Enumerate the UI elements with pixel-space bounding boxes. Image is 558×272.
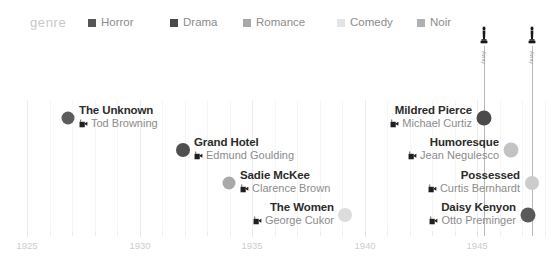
movie-camera-icon [428, 183, 437, 192]
axis-tick-label: 1945 [466, 240, 487, 251]
award-caption: Away [481, 51, 487, 64]
movie-camera-icon [429, 215, 438, 224]
axis-tick-minor [500, 231, 501, 236]
film-director-line: Jean Negulesco [408, 149, 499, 162]
axis-tick-minor [410, 231, 411, 236]
legend: genre HorrorDramaRomanceComedyNoir [0, 14, 558, 32]
axis-tick-major [477, 231, 478, 237]
film-label-block: Mildred PierceMichael Curtiz [390, 104, 472, 130]
axis-tick-label: 1935 [241, 240, 262, 251]
legend-swatch-icon [337, 19, 345, 27]
legend-swatch-icon [417, 19, 425, 27]
film-title: Possessed [428, 169, 520, 182]
axis-tick-minor [522, 231, 523, 236]
film-label-block: PossessedCurtis Bernhardt [428, 169, 520, 195]
axis-tick-label: 1940 [354, 240, 375, 251]
legend-title: genre [30, 15, 66, 30]
legend-item-noir[interactable]: Noir [417, 16, 451, 30]
legend-item-romance[interactable]: Romance [243, 16, 305, 30]
film-genre-dot[interactable] [525, 176, 539, 190]
legend-item-drama[interactable]: Drama [170, 16, 218, 30]
legend-item-label: Drama [183, 16, 218, 28]
film-entry[interactable]: HumoresqueJean Negulesco [0, 137, 558, 163]
axis-tick-minor [117, 231, 118, 236]
film-genre-dot[interactable] [477, 111, 492, 126]
axis-tick-major [252, 231, 253, 237]
axis-tick-minor [50, 231, 51, 236]
film-entry[interactable]: Daisy KenyonOtto Preminger [0, 202, 558, 228]
legend-item-label: Horror [101, 16, 134, 28]
legend-item-label: Comedy [350, 16, 393, 28]
axis-tick-minor [275, 231, 276, 236]
legend-swatch-icon [170, 19, 178, 27]
movie-camera-icon [408, 150, 417, 159]
legend-swatch-icon [243, 19, 251, 27]
award-caption: Away [529, 51, 535, 64]
film-label-block: HumoresqueJean Negulesco [408, 136, 499, 162]
axis-tick-minor [72, 231, 73, 236]
axis-tick-minor [95, 231, 96, 236]
legend-item-label: Noir [430, 16, 451, 28]
axis-tick-major [27, 231, 28, 237]
axis-tick-label: 1925 [16, 240, 37, 251]
axis-tick-minor [185, 231, 186, 236]
film-label-block: Daisy KenyonOtto Preminger [429, 201, 516, 227]
legend-swatch-icon [88, 19, 96, 27]
film-director-line: Michael Curtiz [390, 117, 472, 130]
axis-tick-minor [162, 231, 163, 236]
film-entry[interactable]: Mildred PierceMichael Curtiz [0, 105, 558, 131]
movie-camera-icon [390, 118, 399, 127]
film-genre-dot[interactable] [504, 143, 519, 158]
film-director-name: Otto Preminger [441, 214, 516, 226]
axis-tick-minor [342, 231, 343, 236]
axis-tick-major [365, 231, 366, 237]
axis-tick-minor [432, 231, 433, 236]
genre-timeline-chart: 19251930193519401945 AwayAway genre Horr… [0, 0, 558, 272]
film-title: Mildred Pierce [390, 104, 472, 117]
legend-item-horror[interactable]: Horror [88, 16, 134, 30]
film-director-line: Otto Preminger [429, 214, 516, 227]
axis-tick-minor [545, 231, 546, 236]
film-title: Daisy Kenyon [429, 201, 516, 214]
legend-item-label: Romance [256, 16, 305, 28]
film-genre-dot[interactable] [521, 208, 536, 223]
axis-tick-minor [297, 231, 298, 236]
film-director-line: Curtis Bernhardt [428, 182, 520, 195]
film-director-name: Curtis Bernhardt [440, 182, 520, 194]
film-title: Humoresque [408, 136, 499, 149]
axis-tick-minor [230, 231, 231, 236]
axis-tick-label: 1930 [129, 240, 150, 251]
film-entry[interactable]: PossessedCurtis Bernhardt [0, 170, 558, 196]
axis-tick-minor [387, 231, 388, 236]
film-director-name: Jean Negulesco [420, 149, 499, 161]
legend-item-comedy[interactable]: Comedy [337, 16, 393, 30]
axis-tick-minor [455, 231, 456, 236]
film-director-name: Michael Curtiz [402, 117, 472, 129]
axis-tick-minor [320, 231, 321, 236]
axis-tick-major [140, 231, 141, 237]
axis-tick-minor [207, 231, 208, 236]
